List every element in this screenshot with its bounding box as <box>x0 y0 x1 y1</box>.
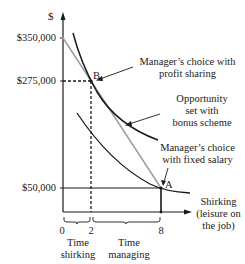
brace-managing <box>93 217 160 224</box>
point-a <box>159 186 162 189</box>
annotation-fixed-salary-line-1: Manager’s choice <box>150 142 245 154</box>
indifference-curve-high <box>73 33 158 140</box>
annotation-fixed-salary: Manager’s choice with fixed salary <box>150 142 245 166</box>
point-x8 <box>160 211 163 214</box>
annotation-profit-sharing: Manager’s choice with profit sharing <box>130 56 245 80</box>
y-tick-50000: $50,000 <box>0 182 56 194</box>
annotation-opportunity-set-line-2: set with <box>162 105 242 117</box>
point-b-label: B <box>93 70 100 82</box>
arrow-opportunity-set <box>129 114 160 124</box>
x-tick-0: 0 <box>56 225 68 237</box>
brace-label-managing-line-2: managing <box>105 249 153 261</box>
annotation-profit-sharing-line-1: Manager’s choice with <box>130 56 245 68</box>
annotation-opportunity-set-line-1: Opportunity <box>162 93 242 105</box>
y-tick-275000: $275,000 <box>0 75 56 87</box>
x-axis-label: Shirking (leisure on the job) <box>192 196 245 232</box>
x-tick-8: 8 <box>155 225 167 237</box>
brace-label-managing-line-1: Time <box>105 237 153 249</box>
arrow-profit-sharing <box>100 67 133 79</box>
diagram: $ $350,000 $275,000 $50,000 0 2 8 Shirki… <box>0 0 245 264</box>
x-axis-label-line-3: the job) <box>192 220 245 232</box>
annotation-opportunity-set: Opportunity set with bonus scheme <box>162 93 242 129</box>
y-tick-350000: $350,000 <box>0 32 56 44</box>
x-axis-label-line-1: Shirking <box>192 196 245 208</box>
brace-label-shirking-line-1: Time <box>56 237 100 249</box>
x-axis-label-line-2: (leisure on <box>192 208 245 220</box>
x-tick-2: 2 <box>85 225 97 237</box>
brace-label-managing: Time managing <box>105 237 153 261</box>
y-axis-arrow-icon <box>61 12 66 20</box>
brace-label-shirking-line-2: shirking <box>56 249 100 261</box>
brace-label-shirking: Time shirking <box>56 237 100 261</box>
annotation-profit-sharing-line-2: profit sharing <box>130 68 245 80</box>
point-y350000 <box>62 37 64 39</box>
brace-shirking <box>64 217 90 224</box>
annotation-opportunity-set-line-3: bonus scheme <box>162 117 242 129</box>
annotation-fixed-salary-line-2: with fixed salary <box>150 154 245 166</box>
x-axis-arrow-icon <box>184 210 192 215</box>
y-axis-label: $ <box>48 10 54 22</box>
point-a-label: A <box>165 179 173 191</box>
